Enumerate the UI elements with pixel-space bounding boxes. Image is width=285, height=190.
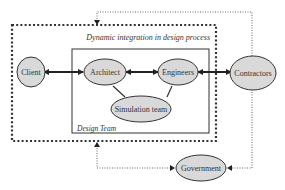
inner-caption: Design Team xyxy=(76,124,117,133)
government-label: Government xyxy=(181,164,222,173)
engineers-simulation-link xyxy=(167,86,172,97)
node-government: Government xyxy=(176,155,226,181)
node-simulation-team: Simulation team xyxy=(111,96,171,122)
outer-caption: Dynamic integration in design process xyxy=(85,33,210,42)
node-engineers: Engineers xyxy=(158,59,198,85)
node-architect: Architect xyxy=(84,59,126,85)
architect-label: Architect xyxy=(90,68,121,77)
node-contractors: Contractors xyxy=(230,56,276,90)
integration-diagram: Dynamic integration in design process De… xyxy=(0,0,285,190)
contractors-label: Contractors xyxy=(234,69,271,78)
simulation-label: Simulation team xyxy=(115,105,168,114)
node-client: Client xyxy=(17,57,45,87)
engineers-label: Engineers xyxy=(162,68,194,77)
client-label: Client xyxy=(21,68,41,77)
architect-simulation-link xyxy=(113,86,125,97)
